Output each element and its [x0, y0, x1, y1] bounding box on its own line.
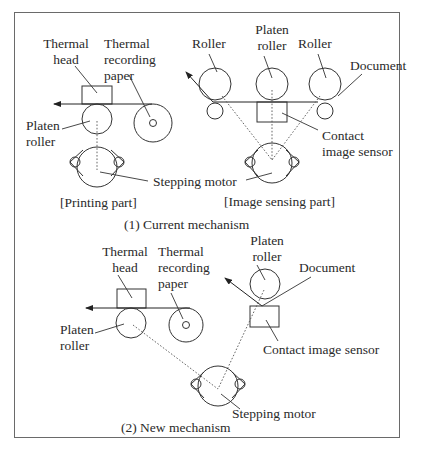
- current-mechanism-caption: (1) Current mechanism: [124, 217, 250, 232]
- new-contact-sensor-label: Contact image sensor: [263, 342, 380, 357]
- platen-roller-icon: [82, 104, 112, 134]
- new-document-exit-arrow-icon: [225, 278, 262, 306]
- roller-right-label: Roller: [298, 36, 332, 51]
- platen-roller-label-l2: roller: [26, 134, 56, 149]
- document-exit-arrow-icon: [186, 72, 213, 102]
- thermal-head-icon: [82, 86, 112, 104]
- platen-roller-label-l1: Platen: [26, 118, 60, 133]
- new-thermal-head-label-l1: Thermal: [102, 244, 148, 259]
- new-sensor-platen-label-l2: roller: [252, 249, 282, 264]
- new-platen-roller-icon: [116, 308, 146, 338]
- new-stepping-motor-icon: [191, 366, 245, 406]
- new-mechanism: Thermal head Thermal recording paper Pla…: [60, 233, 380, 435]
- thermal-head-label-l1: Thermal: [43, 36, 89, 51]
- mechanism-diagram: Thermal head Thermal recording paper Pla…: [0, 0, 430, 462]
- roller-left-label: Roller: [192, 36, 226, 51]
- new-thermal-head-icon: [117, 289, 146, 308]
- recording-paper-label-l3: paper: [104, 68, 134, 83]
- current-mechanism: Thermal head Thermal recording paper Pla…: [26, 22, 406, 232]
- stepping-motor-label: Stepping motor: [153, 174, 237, 189]
- new-recording-paper-label-l3: paper: [158, 276, 188, 291]
- paper-roll-icon: [134, 104, 172, 142]
- recording-paper-label-l1: Thermal: [104, 36, 150, 51]
- sensing-platen-label-l2: roller: [257, 38, 287, 53]
- document-label: Document: [350, 58, 406, 73]
- new-document-label: Document: [299, 260, 355, 275]
- sensing-platen-roller-icon: [256, 68, 288, 100]
- contact-sensor-label-l1: Contact: [322, 128, 364, 143]
- new-stepping-motor-label: Stepping motor: [232, 406, 316, 421]
- roller-left-icon: [199, 68, 231, 100]
- new-contact-image-sensor-icon: [250, 306, 279, 327]
- sensing-platen-label-l1: Platen: [255, 22, 289, 37]
- printing-part-caption: [Printing part]: [60, 195, 137, 210]
- new-sensor-platen-roller-icon: [250, 269, 280, 299]
- new-platen-roller-label-l1: Platen: [60, 322, 94, 337]
- new-recording-paper-label-l1: Thermal: [158, 244, 204, 259]
- new-paper-roll-icon: [169, 308, 203, 342]
- image-sensing-part-caption: [Image sensing part]: [224, 194, 335, 209]
- new-thermal-head-label-l2: head: [112, 260, 138, 275]
- contact-sensor-label-l2: image sensor: [322, 144, 393, 159]
- roller-right-icon: [309, 68, 341, 100]
- recording-paper-label-l2: recording: [104, 52, 156, 67]
- new-sensor-platen-label-l1: Platen: [250, 233, 284, 248]
- new-mechanism-caption: (2) New mechanism: [121, 420, 231, 435]
- thermal-head-label-l2: head: [53, 52, 79, 67]
- new-platen-roller-label-l2: roller: [60, 338, 90, 353]
- printing-part: Thermal head Thermal recording paper Pla…: [26, 36, 172, 210]
- new-recording-paper-label-l2: recording: [158, 260, 210, 275]
